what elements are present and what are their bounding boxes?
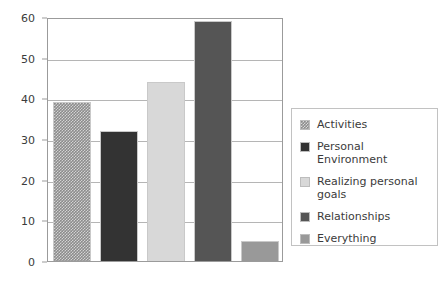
legend-label: Realizing personal goals [317,175,418,201]
y-tick-label-60: 60 [21,13,35,24]
bar-personal-environment [100,131,138,261]
legend-item-activities[interactable]: Activities [300,118,431,131]
y-tick-label-0: 0 [28,257,35,268]
bar-everything [241,241,279,261]
legend-label: Activities [317,118,367,131]
bar-realizing-personal-goals [147,82,185,261]
bars-layer [48,19,282,261]
bar-chart: 0102030405060 ActivitiesPersonal Environ… [0,0,444,283]
y-axis: 0102030405060 [0,18,42,262]
legend-label: Personal Environment [317,140,431,166]
bar-relationships [194,21,232,261]
y-tick-label-40: 40 [21,94,35,105]
y-tick-label-10: 10 [21,216,35,227]
y-tick-label-20: 20 [21,175,35,186]
legend-swatch-icon [300,177,310,187]
bar-activities [53,102,91,261]
legend-swatch-icon [300,142,310,152]
y-tick-label-30: 30 [21,135,35,146]
chart-legend: ActivitiesPersonal EnvironmentRealizing … [291,108,438,246]
y-tick-label-50: 50 [21,53,35,64]
legend-swatch-icon [300,120,310,130]
legend-item-everything[interactable]: Everything [300,232,431,245]
legend-swatch-icon [300,212,310,222]
legend-item-personal-environment[interactable]: Personal Environment [300,140,431,166]
legend-label: Relationships [317,210,390,223]
legend-label: Everything [317,232,377,245]
legend-item-realizing-personal-goals[interactable]: Realizing personal goals [300,175,431,201]
legend-item-relationships[interactable]: Relationships [300,210,431,223]
legend-swatch-icon [300,234,310,244]
plot-area [47,18,283,262]
